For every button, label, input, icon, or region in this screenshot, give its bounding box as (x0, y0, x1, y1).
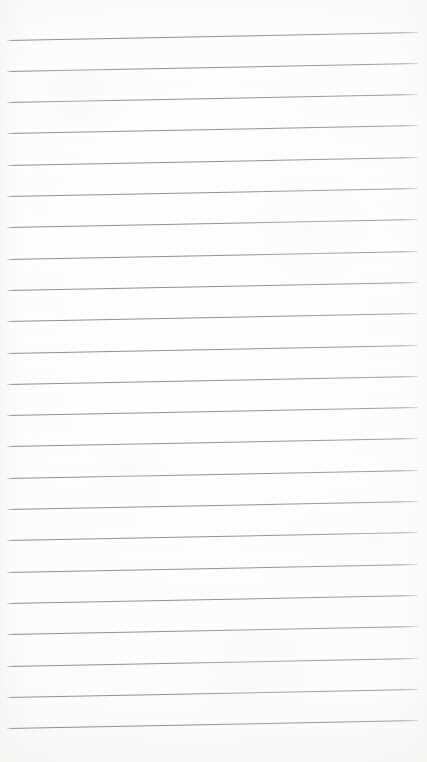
rule-line (7, 438, 418, 447)
rule-line (7, 470, 418, 479)
rule-line (7, 94, 418, 103)
rule-line (7, 595, 418, 604)
rule-line (7, 689, 418, 698)
rule-line (7, 219, 418, 228)
rule-line (7, 125, 418, 134)
rule-line (7, 657, 418, 666)
rule-line (7, 376, 418, 385)
rule-line (7, 188, 418, 197)
rule-line (7, 282, 418, 291)
rule-line (7, 407, 418, 416)
rule-line (7, 720, 418, 729)
lined-paper-sheet[interactable] (0, 0, 427, 762)
rule-line (7, 344, 418, 353)
rule-line (7, 31, 418, 40)
rule-line (7, 532, 418, 541)
rule-line (7, 63, 418, 72)
rule-line (7, 564, 418, 573)
rule-line (7, 626, 418, 635)
rule-line (7, 157, 418, 166)
rule-line (7, 313, 418, 322)
rule-line (7, 251, 418, 260)
ruled-lines-group (0, 0, 427, 762)
rule-line (7, 501, 418, 510)
